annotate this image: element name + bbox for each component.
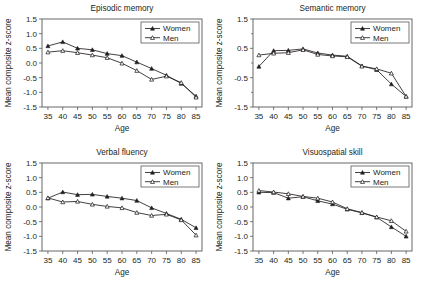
y-tick-label: 1.0 — [237, 174, 249, 183]
series-line-women — [48, 42, 196, 96]
data-point-marker — [150, 206, 154, 210]
data-point-marker — [331, 200, 335, 204]
y-tick-label: 1.5 — [26, 159, 38, 168]
y-axis-title: Mean composite z-score — [215, 18, 224, 108]
series-line-men — [259, 191, 406, 232]
data-point-marker — [105, 204, 109, 208]
x-tick-label: 45 — [73, 112, 82, 121]
y-tick-label: 1.5 — [237, 15, 249, 24]
legend-label-women: Women — [373, 168, 400, 177]
y-tick-label: 0.0 — [237, 203, 249, 212]
x-tick-label: 65 — [132, 112, 141, 121]
x-tick-label: 75 — [162, 112, 171, 121]
y-tick-label: 0.5 — [237, 188, 249, 197]
x-tick-label: 80 — [387, 112, 396, 121]
data-point-marker — [76, 199, 80, 203]
data-point-marker — [301, 194, 305, 198]
data-point-marker — [105, 56, 109, 60]
chart-title: Verbal fluency — [96, 148, 148, 157]
x-tick-label: 45 — [284, 112, 293, 121]
data-point-marker — [286, 192, 290, 196]
data-point-marker — [257, 189, 261, 193]
data-point-marker — [90, 202, 94, 206]
x-tick-label: 75 — [372, 256, 381, 265]
chart-title: Visuospatial skill — [303, 148, 363, 157]
data-point-marker — [135, 211, 139, 215]
data-point-marker — [389, 71, 393, 75]
x-tick-label: 85 — [402, 256, 411, 265]
x-tick-label: 55 — [313, 112, 322, 121]
x-axis-title: Age — [325, 124, 340, 133]
x-tick-label: 65 — [343, 256, 352, 265]
data-point-marker — [404, 234, 408, 238]
x-tick-label: 35 — [43, 256, 52, 265]
x-tick-label: 80 — [387, 256, 396, 265]
x-tick-label: 40 — [58, 256, 67, 265]
x-tick-label: 55 — [103, 256, 112, 265]
legend-label-men: Men — [373, 178, 389, 187]
y-tick-label: 0.5 — [26, 188, 38, 197]
y-axis-title: Mean composite z-score — [215, 162, 224, 252]
x-tick-label: 85 — [192, 112, 201, 121]
figure-cognitive-decline-panels: Episodic memory1.51.00.50.0-0.5-1.0-1.53… — [0, 0, 421, 288]
chart-panel-semantic-memory: Semantic memory1.50.5-0.5-1.535404550556… — [211, 0, 421, 144]
series-line-women — [259, 192, 406, 236]
y-tick-label: -0.5 — [23, 74, 37, 83]
y-tick-label: 0.0 — [26, 203, 38, 212]
data-point-marker — [76, 51, 80, 55]
data-point-marker — [375, 67, 379, 71]
x-tick-label: 70 — [357, 256, 366, 265]
x-tick-label: 55 — [103, 112, 112, 121]
data-point-marker — [61, 200, 65, 204]
legend-label-men: Men — [163, 178, 179, 187]
x-tick-label: 70 — [147, 256, 156, 265]
x-axis-title: Age — [115, 268, 130, 277]
data-point-marker — [360, 211, 364, 215]
x-tick-label: 40 — [269, 112, 278, 121]
y-tick-label: -1.5 — [234, 247, 248, 256]
legend-label-women: Women — [373, 24, 400, 33]
data-point-marker — [150, 77, 154, 81]
data-point-marker — [194, 226, 198, 230]
x-tick-label: 60 — [118, 112, 127, 121]
legend-label-men: Men — [163, 34, 179, 43]
x-tick-label: 45 — [73, 256, 82, 265]
x-tick-label: 45 — [284, 256, 293, 265]
y-tick-label: 1.0 — [26, 174, 38, 183]
chart-panel-verbal-fluency: Verbal fluency1.51.00.50.0-0.5-1.0-1.535… — [0, 144, 211, 288]
x-tick-label: 85 — [402, 112, 411, 121]
data-point-marker — [120, 61, 124, 65]
chart-title: Episodic memory — [91, 4, 155, 13]
data-point-marker — [316, 196, 320, 200]
x-tick-label: 55 — [313, 256, 322, 265]
y-tick-label: -1.5 — [23, 103, 37, 112]
y-tick-label: -1.0 — [23, 88, 37, 97]
data-point-marker — [272, 190, 276, 194]
data-point-marker — [61, 49, 65, 53]
data-point-marker — [179, 81, 183, 85]
series-line-men — [48, 51, 196, 98]
data-point-marker — [389, 219, 393, 223]
data-point-marker — [345, 207, 349, 211]
data-point-marker — [301, 48, 305, 52]
legend-label-men: Men — [373, 34, 389, 43]
y-tick-label: 0.5 — [237, 44, 249, 53]
legend-label-women: Women — [163, 24, 190, 33]
y-tick-label: -0.5 — [234, 218, 248, 227]
y-axis-title: Mean composite z-score — [4, 162, 13, 252]
x-tick-label: 35 — [43, 112, 52, 121]
x-axis-title: Age — [325, 268, 340, 277]
data-point-marker — [135, 69, 139, 73]
x-tick-label: 75 — [372, 112, 381, 121]
data-point-marker — [389, 225, 393, 229]
x-tick-label: 80 — [177, 112, 186, 121]
x-tick-label: 50 — [88, 112, 97, 121]
x-tick-label: 70 — [357, 112, 366, 121]
x-tick-label: 65 — [343, 112, 352, 121]
x-tick-label: 40 — [58, 112, 67, 121]
data-point-marker — [46, 196, 50, 200]
x-axis-title: Age — [115, 124, 130, 133]
chart-panel-episodic-memory: Episodic memory1.51.00.50.0-0.5-1.0-1.53… — [0, 0, 211, 144]
y-tick-label: -1.5 — [234, 103, 248, 112]
y-tick-label: -0.5 — [234, 74, 248, 83]
